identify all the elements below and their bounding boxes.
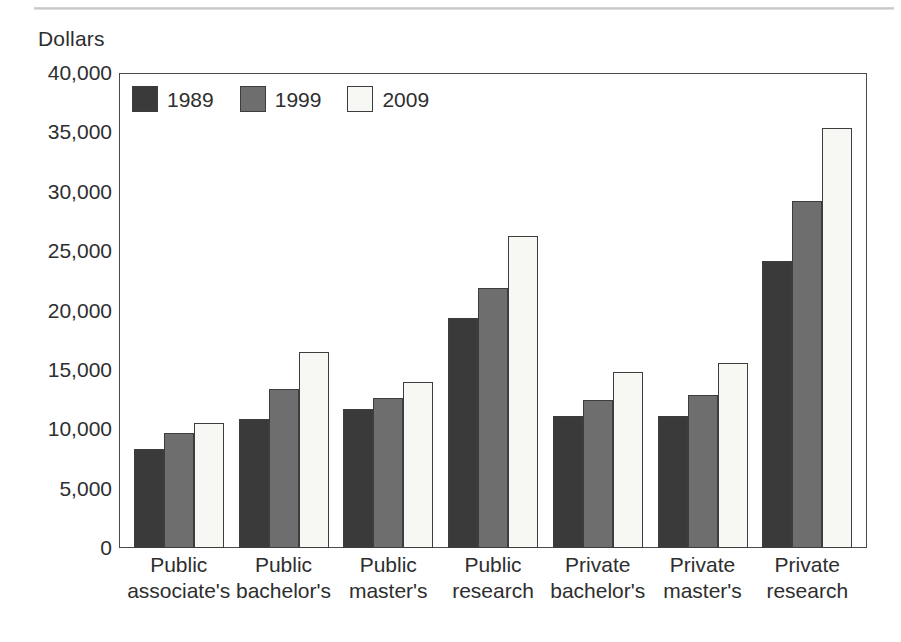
bar (134, 449, 164, 548)
y-axis-title: Dollars (38, 27, 105, 51)
bar (164, 433, 194, 548)
x-axis-category-labels: Publicassociate'sPublicbachelor'sPublicm… (119, 552, 867, 630)
y-axis-tick-label: 25,000 (48, 239, 112, 263)
y-axis-tick-labels: 05,00010,00015,00020,00025,00030,00035,0… (0, 73, 112, 548)
x-axis-category-label-line1: Public (150, 553, 207, 576)
x-axis-category-label-line1: Public (360, 553, 417, 576)
y-axis-tick-label: 35,000 (48, 120, 112, 144)
bar (822, 128, 852, 548)
x-axis-category-label-line1: Private (670, 553, 735, 576)
chart-legend: 198919992009 (132, 86, 429, 112)
bar (613, 372, 643, 548)
legend-swatch-icon (132, 86, 158, 112)
bar (194, 423, 224, 548)
x-axis-category-label-line1: Private (565, 553, 630, 576)
x-axis-category-label-line1: Public (255, 553, 312, 576)
legend-swatch-icon (240, 86, 266, 112)
bar (239, 419, 269, 548)
bar (403, 382, 433, 548)
y-axis-tick-label: 5,000 (59, 477, 112, 501)
bar (343, 409, 373, 548)
x-axis-category-label-line2: research (727, 578, 887, 604)
bar (762, 261, 792, 548)
x-axis-category-label: Privateresearch (727, 552, 887, 604)
legend-swatch-icon (347, 86, 373, 112)
bar (718, 363, 748, 548)
y-axis-tick-label: 30,000 (48, 180, 112, 204)
bar (583, 400, 613, 548)
bar-series-layer (119, 73, 867, 548)
bar (478, 288, 508, 548)
bar (688, 395, 718, 548)
y-axis-tick-label: 15,000 (48, 358, 112, 382)
legend-entry[interactable]: 2009 (347, 86, 429, 112)
legend-label: 1999 (275, 89, 322, 110)
bar (448, 318, 478, 548)
legend-label: 2009 (382, 89, 429, 110)
bar (658, 416, 688, 548)
y-axis-tick-label: 20,000 (48, 299, 112, 323)
bar (299, 352, 329, 548)
y-axis-tick-label: 10,000 (48, 417, 112, 441)
bar (508, 236, 538, 548)
bar (269, 389, 299, 548)
legend-entry[interactable]: 1999 (240, 86, 322, 112)
page-top-rule (34, 7, 894, 10)
x-axis-category-label-line1: Public (464, 553, 521, 576)
legend-entry[interactable]: 1989 (132, 86, 214, 112)
chart-page: Dollars 05,00010,00015,00020,00025,00030… (0, 0, 901, 642)
bar (792, 201, 822, 548)
y-axis-tick-label: 40,000 (48, 61, 112, 85)
bar (553, 416, 583, 548)
bar (373, 398, 403, 548)
x-axis-category-label-line1: Private (775, 553, 840, 576)
legend-label: 1989 (167, 89, 214, 110)
